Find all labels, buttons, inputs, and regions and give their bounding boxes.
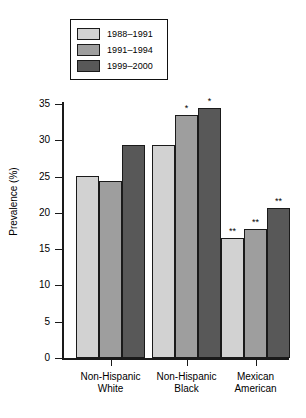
y-tick-label: 30	[20, 135, 50, 145]
x-tick-mark	[111, 360, 112, 366]
legend-label-1988-1991: 1988–1991	[107, 29, 153, 39]
y-tick-label: 5	[20, 317, 50, 327]
legend-label-1991-1994: 1991–1994	[107, 45, 153, 55]
y-tick-mark	[55, 104, 62, 105]
y-tick-label: 20	[20, 208, 50, 218]
y-tick-mark	[55, 249, 62, 250]
legend-item: 1991–1994	[77, 42, 161, 57]
bar	[122, 145, 145, 358]
y-tick-label: 35	[20, 99, 50, 109]
bar	[244, 229, 267, 358]
x-tick-mark	[187, 360, 188, 366]
x-category-label-line: Mexican	[209, 371, 303, 383]
y-tick-mark	[55, 322, 62, 323]
chart-legend: 1988–1991 1991–1994 1999–2000	[70, 19, 168, 80]
x-category-label: MexicanAmerican	[209, 371, 303, 395]
legend-item: 1999–2000	[77, 58, 161, 73]
bar	[267, 208, 290, 358]
x-category-label-line: American	[209, 383, 303, 395]
bar	[76, 176, 99, 358]
y-axis-title: Prevalence (%)	[8, 127, 19, 277]
y-tick-mark	[55, 213, 62, 214]
legend-item: 1988–1991	[77, 26, 161, 41]
legend-swatch-1991-1994	[77, 44, 100, 56]
y-tick-mark	[55, 358, 62, 359]
y-tick-label: 15	[20, 244, 50, 254]
legend-swatch-1988-1991	[77, 28, 100, 40]
y-tick-label: 0	[20, 353, 50, 363]
significance-marker: **	[244, 218, 267, 227]
y-tick-mark	[55, 285, 62, 286]
bar	[175, 115, 198, 358]
significance-marker: *	[175, 104, 198, 113]
bar	[221, 238, 244, 358]
y-tick-mark	[55, 177, 62, 178]
y-tick-label: 10	[20, 280, 50, 290]
y-tick-label: 25	[20, 172, 50, 182]
bar	[198, 108, 221, 358]
chart-figure: 1988–1991 1991–1994 1999–2000 Prevalence…	[0, 0, 306, 418]
y-tick-mark	[55, 140, 62, 141]
plot-area: ********	[62, 104, 289, 358]
legend-label-1999-2000: 1999–2000	[107, 61, 153, 71]
significance-marker: **	[267, 197, 290, 206]
x-tick-mark	[256, 360, 257, 366]
bar	[152, 145, 175, 358]
significance-marker: *	[198, 97, 221, 106]
significance-marker: **	[221, 227, 244, 236]
legend-swatch-1999-2000	[77, 60, 100, 72]
bar	[99, 181, 122, 358]
